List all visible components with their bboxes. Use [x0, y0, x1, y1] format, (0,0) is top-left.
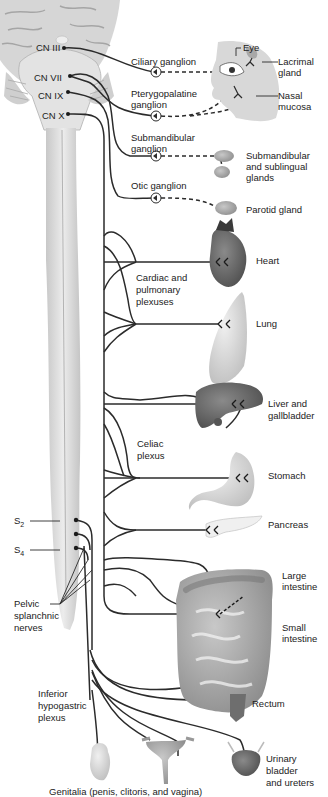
submandibular-ganglion-label-1: Submandibular: [131, 132, 195, 143]
parotid-label: Parotid gland: [246, 204, 302, 215]
spinal-cord: [46, 128, 80, 630]
submandibular-glands-label-3: glands: [246, 172, 274, 183]
cardiac-plexus-label-3: plexuses: [136, 296, 174, 307]
small-intestine-label-2: intestine: [282, 633, 317, 644]
inferior-hypogastric-label-3: plexus: [38, 712, 65, 723]
lung-label: Lung: [256, 318, 277, 329]
pelvic-splanchnic-label-1: Pelvic: [14, 598, 39, 609]
eye-label: Eye: [243, 42, 259, 53]
lacrimal-label-2: gland: [278, 67, 301, 78]
genitalia-label: Genitalia (penis, clitoris, and vagina): [49, 786, 202, 797]
stomach-organ: [189, 452, 254, 510]
pterygopalatine-label-1: Pterygopalatine: [131, 88, 197, 99]
large-intestine-label-1: Large: [282, 570, 306, 581]
large-intestine-label-2: intestine: [282, 581, 317, 592]
submandibular-glands-label-2: and sublingual: [246, 161, 307, 172]
pancreas-label: Pancreas: [268, 519, 308, 530]
nasal-label-1: Nasal: [278, 90, 302, 101]
lung-organ: [209, 292, 247, 384]
liver-organ: [195, 382, 263, 428]
cardiac-plexus-label-2: pulmonary: [136, 284, 180, 295]
s2-label: S2: [14, 515, 24, 530]
celiac-plexus-label-1: Celiac: [137, 438, 163, 449]
otic-ganglion-label: Otic ganglion: [131, 180, 186, 191]
stomach-label: Stomach: [268, 470, 306, 481]
pterygopalatine-label-2: ganglion: [131, 99, 167, 110]
pelvic-splanchnic-label-2: splanchnic: [14, 610, 59, 621]
cardiac-plexus-label-1: Cardiac and: [136, 272, 187, 283]
liver-label-2: gallbladder: [268, 410, 314, 421]
bladder-label-1: Urinary: [266, 753, 297, 764]
rectum-organ: [230, 694, 246, 722]
heart-label: Heart: [256, 255, 279, 266]
inferior-hypogastric-label-2: hypogastric: [38, 700, 87, 711]
small-intestine-label-1: Small: [282, 622, 306, 633]
rectum-label: Rectum: [252, 698, 285, 709]
cn9-label: CN IX: [38, 90, 63, 101]
male-genitalia-organ: [90, 743, 110, 780]
pelvic-splanchnic-label-3: nerves: [14, 622, 43, 633]
nasal-label-2: mucosa: [278, 101, 311, 112]
bladder-organ: [228, 742, 264, 776]
cn7-label: CN VII: [34, 72, 62, 83]
s4-label: S4: [14, 544, 24, 559]
intestines-organ: [176, 569, 273, 712]
submandibular-ganglion-label-2: ganglion: [131, 143, 167, 154]
cn3-label: CN III: [36, 42, 60, 53]
salivary-glands: [214, 150, 237, 215]
pancreas-organ: [206, 516, 262, 537]
heart-organ: [210, 218, 247, 287]
bladder-label-2: bladder: [266, 765, 298, 776]
inferior-hypogastric-label-1: Inferior: [38, 688, 68, 699]
bladder-label-3: and ureters: [266, 777, 314, 788]
ciliary-ganglion-label: Ciliary ganglion: [131, 56, 196, 67]
celiac-plexus-label-2: plexus: [137, 450, 164, 461]
liver-label-1: Liver and: [268, 398, 307, 409]
lacrimal-label-1: Lacrimal: [278, 56, 314, 67]
female-genitalia-organ: [142, 738, 194, 784]
submandibular-glands-label-1: Submandibular: [246, 150, 310, 161]
cn10-label: CN X: [42, 110, 65, 121]
